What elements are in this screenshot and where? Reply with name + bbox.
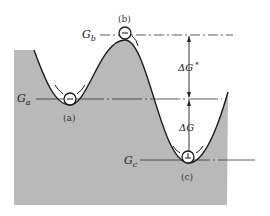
arrowhead-down-icon bbox=[187, 92, 191, 98]
caption-c: (c) bbox=[181, 172, 193, 182]
arrowhead-up-icon bbox=[187, 36, 191, 42]
delta-g-activation-label: ΔG* bbox=[177, 61, 199, 73]
delta-g-label: ΔG bbox=[178, 122, 194, 133]
ball-c bbox=[182, 151, 194, 163]
caption-b: (b) bbox=[118, 14, 131, 24]
arrowhead-up-icon bbox=[187, 100, 191, 106]
ball-b bbox=[119, 27, 131, 39]
caption-a: (a) bbox=[63, 113, 75, 123]
ball-a bbox=[64, 93, 76, 105]
energy-landscape-diagram: Gb Ga Gc ΔG* ΔG (b) (a) (c) bbox=[0, 0, 270, 216]
gb-label: Gb bbox=[82, 28, 96, 43]
